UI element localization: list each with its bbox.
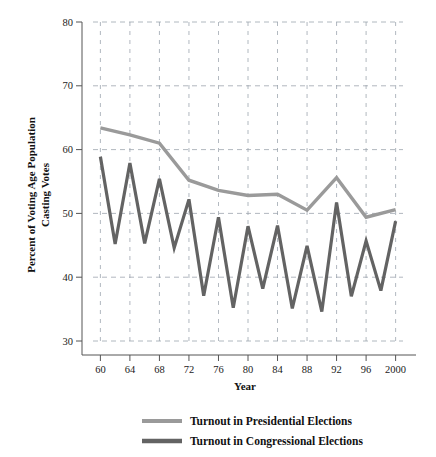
x-axis-tick-label: 92 xyxy=(331,364,342,375)
gridlines xyxy=(93,22,403,341)
y-axis-tick-label: 50 xyxy=(63,208,74,219)
y-axis-tick-label: 70 xyxy=(63,80,74,91)
x-axis-tick-label: 60 xyxy=(95,364,106,375)
x-axis-tick-label: 64 xyxy=(125,364,136,375)
chart-figure: 304050607080606468727680848892962000 Per… xyxy=(0,0,436,457)
x-axis-tick-label: 76 xyxy=(213,364,224,375)
x-axis-tick-label: 96 xyxy=(361,364,372,375)
y-axis-tick-label: 80 xyxy=(63,17,74,28)
legend-label-congressional: Turnout in Congressional Elections xyxy=(190,435,363,448)
x-axis-tick-label: 80 xyxy=(243,364,254,375)
y-axis-title-line1: Percent of Voting Age Population xyxy=(25,117,37,273)
x-axis-tick-label: 68 xyxy=(154,364,165,375)
y-axis-tick-label: 30 xyxy=(63,336,74,347)
axis-tick-labels: 304050607080606468727680848892962000 xyxy=(63,17,407,375)
y-axis-title-line2: Casting Votes xyxy=(39,162,51,227)
turnout-line-chart: 304050607080606468727680848892962000 Per… xyxy=(0,0,436,457)
chart-legend: Turnout in Presidential Elections Turnou… xyxy=(142,415,363,448)
axis-lines xyxy=(82,22,416,355)
x-axis-title: Year xyxy=(234,380,256,392)
series-line-congressional xyxy=(100,157,395,312)
x-axis-tick-label: 2000 xyxy=(385,364,406,375)
legend-label-presidential: Turnout in Presidential Elections xyxy=(190,415,353,427)
y-axis-tick-label: 40 xyxy=(63,272,74,283)
x-axis-tick-label: 72 xyxy=(184,364,195,375)
x-axis-tick-label: 88 xyxy=(302,364,313,375)
x-axis-tick-label: 84 xyxy=(272,364,283,375)
y-axis-tick-label: 60 xyxy=(63,144,74,155)
